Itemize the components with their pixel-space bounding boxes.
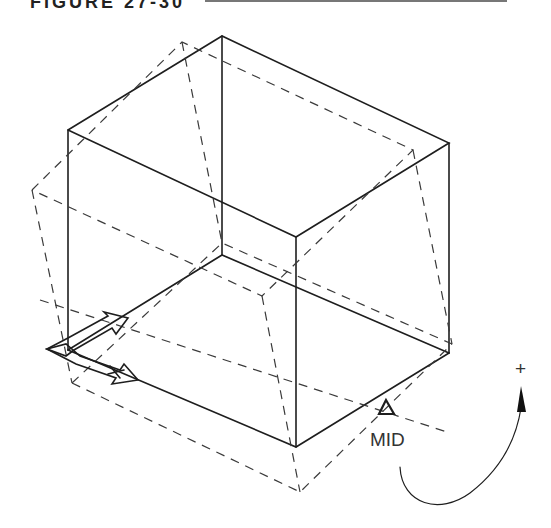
rotated-edge-front	[262, 296, 300, 492]
rotated-edge-right	[413, 150, 452, 344]
mid-label: MID	[370, 429, 405, 450]
ucs-y-arrow	[47, 344, 138, 384]
rotated-edge-left	[32, 190, 72, 383]
curved-arrow-icon	[400, 386, 526, 505]
box-bottom-back	[68, 255, 449, 353]
rotation-sign: +	[515, 358, 526, 379]
box-top-face	[68, 36, 449, 237]
rotated-bottom-front	[72, 344, 452, 492]
box-rotation-diagram: MID +	[0, 0, 551, 528]
rotated-edge-back	[182, 42, 222, 243]
